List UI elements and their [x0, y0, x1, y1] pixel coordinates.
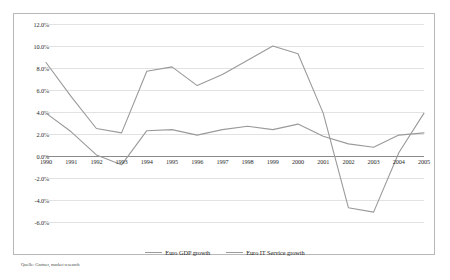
legend-item-gdp: Euro GDP growth	[145, 249, 210, 256]
x-axis-tick-label: 1993	[116, 158, 128, 165]
x-axis-tick-label: 2001	[317, 158, 329, 165]
x-axis-tick-label: 1992	[90, 158, 102, 165]
x-axis-labels: 1990199119921993199419951996199719981999…	[46, 158, 424, 170]
x-axis-tick-label: 1995	[166, 158, 178, 165]
x-axis-tick-label: 1998	[242, 158, 254, 165]
series-line	[46, 46, 424, 212]
x-axis-tick-label: 1990	[40, 158, 52, 165]
x-axis-tick-label: 2004	[393, 158, 405, 165]
series-lines	[46, 24, 424, 222]
x-axis-tick-label: 1999	[267, 158, 279, 165]
plot-area	[46, 24, 424, 222]
x-axis-tick-label: 2002	[342, 158, 354, 165]
chart-legend: Euro GDP growth Euro IT Service growth	[0, 249, 450, 256]
legend-label-it-service: Euro IT Service growth	[246, 249, 304, 256]
x-axis-tick-label: 2005	[418, 158, 430, 165]
y-axis-labels: 12.0%10.0%8.0%6.0%4.0%2.0%0.0%-2.0%-4.0%…	[13, 24, 49, 222]
legend-item-it-service: Euro IT Service growth	[226, 249, 304, 256]
source-note: Quelle: Gartner, market research	[21, 262, 79, 267]
gridline	[46, 222, 424, 223]
chart-figure: 12.0%10.0%8.0%6.0%4.0%2.0%0.0%-2.0%-4.0%…	[0, 0, 450, 280]
x-axis-tick-label: 1991	[65, 158, 77, 165]
x-axis-tick-label: 2003	[368, 158, 380, 165]
x-axis-tick-label: 2000	[292, 158, 304, 165]
legend-label-gdp: Euro GDP growth	[165, 249, 210, 256]
legend-line-icon-gdp	[145, 252, 162, 253]
x-axis-tick-label: 1997	[216, 158, 228, 165]
x-axis-tick-label: 1994	[141, 158, 153, 165]
legend-line-icon-it-service	[226, 252, 243, 253]
x-axis-tick-label: 1996	[191, 158, 203, 165]
